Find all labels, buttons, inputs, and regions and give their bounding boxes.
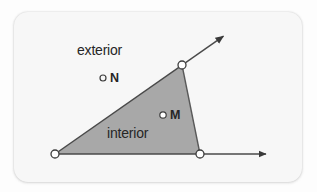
point-N-marker bbox=[100, 75, 106, 81]
interior-label: interior bbox=[107, 126, 148, 140]
point-on-horizontal-ray bbox=[196, 150, 204, 158]
angle-vertex bbox=[51, 150, 59, 158]
diagram-stage: exterior interior N M bbox=[0, 0, 317, 192]
point-N-label: N bbox=[110, 72, 119, 85]
exterior-label: exterior bbox=[77, 43, 122, 57]
point-on-diagonal-ray bbox=[178, 61, 186, 69]
geometry-figure bbox=[0, 0, 317, 192]
point-M-marker bbox=[160, 112, 166, 118]
point-M-label: M bbox=[170, 109, 180, 122]
